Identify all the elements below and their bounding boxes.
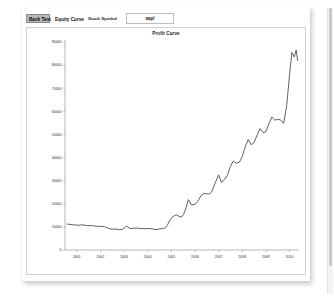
y-tick-label: 60000	[52, 110, 62, 114]
chart-panel: Profit Curve 010000200003000040000500006…	[26, 27, 306, 275]
tab-equity-curve[interactable]: Equity Curve	[52, 14, 83, 23]
app-root: Back Test Equity Curve Stock Symbol Prof…	[0, 0, 334, 302]
x-tick-label: 2003	[120, 255, 128, 259]
plot-area: 0100002000030000400005000060000700008000…	[27, 28, 307, 276]
x-axis-ticks: 2001200220032004200520062007200820092010	[73, 250, 294, 259]
page-card: Back Test Equity Curve Stock Symbol Prof…	[22, 6, 310, 281]
x-tick-label: 2005	[167, 255, 175, 259]
y-axis-ticks: 0100002000030000400005000060000700008000…	[52, 40, 65, 252]
profit-curve-svg: 0100002000030000400005000060000700008000…	[27, 28, 307, 276]
x-tick-label: 2009	[262, 255, 270, 259]
y-tick-label: 20000	[52, 202, 62, 206]
toolbar: Back Test Equity Curve Stock Symbol	[22, 10, 310, 26]
y-tick-label: 40000	[52, 156, 62, 160]
y-tick-label: 10000	[52, 225, 62, 229]
stock-symbol-label: Stock Symbol	[88, 14, 117, 23]
y-tick-label: 90000	[52, 40, 62, 44]
y-tick-label: 80000	[52, 63, 62, 67]
x-tick-label: 2010	[286, 255, 294, 259]
y-tick-label: 30000	[52, 179, 62, 183]
y-tick-label: 70000	[52, 87, 62, 91]
x-tick-label: 2002	[97, 255, 105, 259]
tab-back-test[interactable]: Back Test	[26, 14, 50, 23]
profit-curve-line	[67, 50, 297, 230]
vertical-scrollbar-thumb[interactable]	[329, 8, 332, 266]
x-tick-label: 2008	[238, 255, 246, 259]
y-tick-label: 50000	[52, 133, 62, 137]
x-tick-label: 2001	[73, 255, 81, 259]
y-tick-label: 0	[60, 248, 62, 252]
x-tick-label: 2004	[144, 255, 152, 259]
stock-symbol-input[interactable]	[126, 13, 174, 24]
x-tick-label: 2007	[215, 255, 223, 259]
vertical-scrollbar[interactable]	[327, 8, 333, 294]
x-tick-label: 2006	[191, 255, 199, 259]
